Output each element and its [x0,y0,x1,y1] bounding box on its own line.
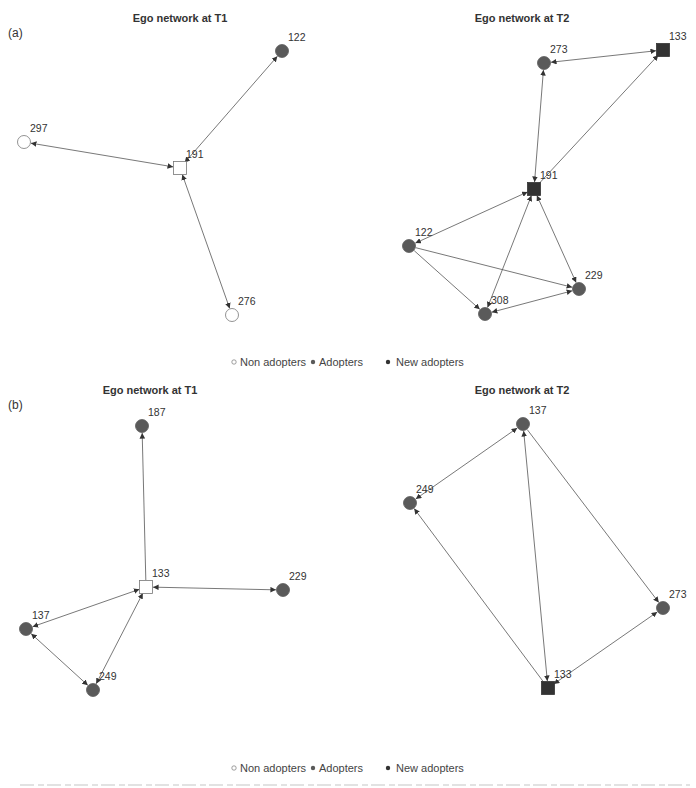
node-label-137: 137 [32,609,50,621]
legend-b: Non adopters Adopters New adopters [232,762,465,774]
node-133-square-icon [140,581,153,594]
node-label-249: 249 [416,483,434,495]
node-297-circle-icon [18,136,31,149]
node-133-square-icon [542,682,555,695]
node-label-122: 122 [415,226,433,238]
title-b-t2: Ego network at T2 [475,384,570,396]
edge-122-308 [414,251,480,310]
edge-191-273 [535,70,544,182]
legend-a: Non adopters Adopters New adopters [232,356,465,368]
edge-133-137 [524,431,548,681]
node-label-191: 191 [186,148,204,160]
legend-b-non-adopters: Non adopters [240,762,307,774]
network-a-t2: 191133273122229308 [403,30,687,321]
edge-133-249 [414,509,544,683]
node-133-square-icon [657,44,670,57]
node-label-122: 122 [288,31,306,43]
network-b-t2: 133137249273 [404,404,687,695]
panel-b: (b) Ego network at T1 Ego network at T2 … [8,384,687,774]
legend-a-adopters: Adopters [319,356,364,368]
node-137-circle-icon [20,623,33,636]
network-a-t1: 191122297276 [18,31,306,322]
edge-191-122 [185,56,278,162]
legend-b-adopters: Adopters [319,762,364,774]
network-b-t1: 133187229137249 [20,406,307,697]
node-label-133: 133 [152,567,170,579]
edge-191-297 [31,143,173,167]
node-273-circle-icon [538,57,551,70]
node-label-308: 308 [491,294,509,306]
panel-tag-b: (b) [8,398,23,412]
edge-133-137 [33,589,140,626]
node-273-circle-icon [657,602,670,615]
node-label-229: 229 [289,570,307,582]
new-adopter-legend-icon [386,766,390,770]
node-label-276: 276 [238,295,256,307]
node-191-square-icon [528,183,541,196]
edge-133-229 [153,587,276,590]
node-label-133: 133 [669,30,687,42]
node-122-circle-icon [403,240,416,253]
edge-191-308 [488,196,532,308]
title-b-t1: Ego network at T1 [103,384,198,396]
node-249-circle-icon [404,497,417,510]
node-137-circle-icon [517,418,530,431]
adopter-legend-icon [311,360,315,364]
title-a-t1: Ego network at T1 [133,12,228,24]
panel-tag-a: (a) [8,26,23,40]
node-label-137: 137 [529,404,547,416]
node-276-circle-icon [226,309,239,322]
title-a-t2: Ego network at T2 [475,12,570,24]
node-label-187: 187 [148,406,166,418]
adopter-legend-icon [311,766,315,770]
edge-122-229 [416,248,572,288]
node-label-273: 273 [550,43,568,55]
non-adopter-legend-icon [232,766,236,770]
new-adopter-legend-icon [386,360,390,364]
node-122-circle-icon [276,45,289,58]
node-187-circle-icon [136,420,149,433]
node-191-square-icon [174,162,187,175]
edge-191-133 [539,55,658,184]
node-229-circle-icon [277,584,290,597]
node-label-297: 297 [30,122,48,134]
node-308-circle-icon [479,308,492,321]
node-249-circle-icon [87,684,100,697]
node-label-249: 249 [99,670,117,682]
node-label-229: 229 [585,269,603,281]
node-label-133: 133 [554,668,572,680]
legend-b-new-adopters: New adopters [396,762,464,774]
edge-137-273 [527,430,659,603]
non-adopter-legend-icon [232,360,236,364]
node-label-191: 191 [540,169,558,181]
node-label-273: 273 [669,588,687,600]
edge-133-187 [142,433,146,580]
legend-a-non-adopters: Non adopters [240,356,307,368]
edge-191-276 [182,175,229,309]
legend-a-new-adopters: New adopters [396,356,464,368]
panel-a: (a) Ego network at T1 Ego network at T2 … [8,12,687,368]
ego-network-figure: (a) Ego network at T1 Ego network at T2 … [0,0,696,788]
edge-191-229 [537,195,576,282]
edge-137-249 [31,634,88,686]
node-229-circle-icon [573,283,586,296]
